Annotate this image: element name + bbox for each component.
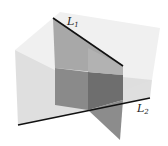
label-l2: L2 bbox=[136, 102, 149, 116]
diagram-svg: L1 L2 bbox=[0, 0, 168, 146]
vertical-plane-lower-left bbox=[55, 68, 88, 110]
skew-lines-diagram: L1 L2 bbox=[0, 0, 168, 146]
